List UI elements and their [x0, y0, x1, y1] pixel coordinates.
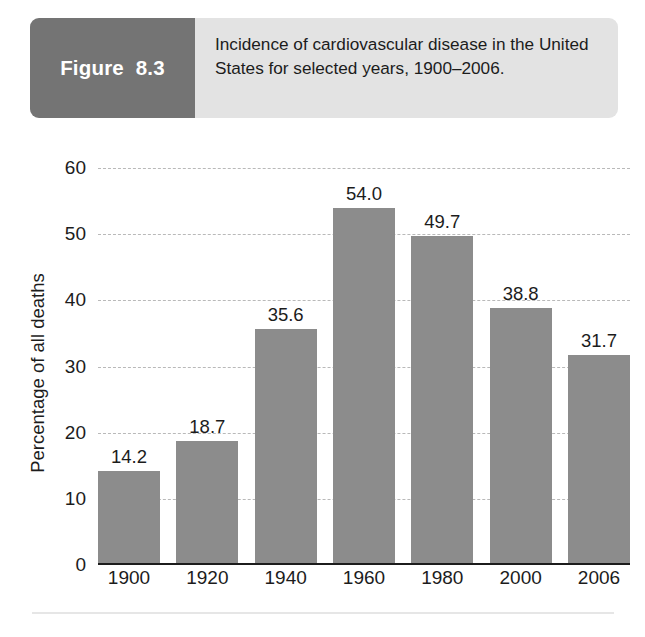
x-tick-slot: 2006: [568, 567, 630, 601]
x-tick-label: 1980: [421, 567, 463, 589]
x-tick-slot: 1900: [98, 567, 160, 601]
x-tick-slot: 1920: [176, 567, 238, 601]
bar-slot: 31.7: [568, 168, 630, 565]
figure-caption-box: Figure 8.3 Incidence of cardiovascular d…: [30, 18, 618, 118]
x-tick-slot: 1940: [255, 567, 317, 601]
bar-value-label: 38.8: [481, 283, 561, 305]
bar-value-label: 14.2: [89, 446, 169, 468]
y-tick-label: 10: [26, 488, 86, 510]
y-tick-label: 20: [26, 422, 86, 444]
figure-header: Figure 8.3 Incidence of cardiovascular d…: [30, 18, 618, 118]
bar-slot: 38.8: [490, 168, 552, 565]
x-tick-label: 2006: [578, 567, 620, 589]
bar-slot: 54.0: [333, 168, 395, 565]
x-axis-tick-labels: 1900192019401960198020002006: [98, 567, 630, 601]
figure-caption-text: Incidence of cardiovascular disease in t…: [215, 33, 610, 80]
bar-slot: 18.7: [176, 168, 238, 565]
y-tick-label: 30: [26, 356, 86, 378]
x-tick-label: 1960: [343, 567, 385, 589]
x-tick-slot: 1980: [411, 567, 473, 601]
bar[interactable]: [490, 308, 552, 565]
bar-slot: 49.7: [411, 168, 473, 565]
x-tick-slot: 2000: [490, 567, 552, 601]
x-axis-line: [98, 563, 630, 566]
y-tick-label: 60: [26, 157, 86, 179]
bar-chart: Percentage of all deaths 6050403020100 1…: [0, 130, 645, 610]
x-tick-label: 1900: [108, 567, 150, 589]
bar-value-label: 18.7: [167, 416, 247, 438]
bar[interactable]: [98, 471, 160, 565]
bottom-divider: [32, 612, 614, 614]
bar[interactable]: [255, 329, 317, 565]
bar[interactable]: [176, 441, 238, 565]
figure-number-box: Figure 8.3: [30, 18, 195, 118]
y-tick-label: 40: [26, 289, 86, 311]
y-tick-label: 0: [26, 554, 86, 576]
bar-slot: 14.2: [98, 168, 160, 565]
x-tick-slot: 1960: [333, 567, 395, 601]
plot-area: 6050403020100 14.218.735.654.049.738.831…: [98, 168, 630, 565]
figure-number-label: Figure 8.3: [60, 56, 165, 80]
bar-value-label: 49.7: [402, 211, 482, 233]
bar-slot: 35.6: [255, 168, 317, 565]
bar[interactable]: [333, 208, 395, 565]
bar[interactable]: [568, 355, 630, 565]
x-tick-label: 1940: [265, 567, 307, 589]
y-tick-label: 50: [26, 223, 86, 245]
x-tick-label: 2000: [500, 567, 542, 589]
x-tick-label: 1920: [186, 567, 228, 589]
bar-value-label: 31.7: [559, 330, 639, 352]
bar-value-label: 35.6: [246, 304, 326, 326]
bar-value-label: 54.0: [324, 183, 404, 205]
bar-series: 14.218.735.654.049.738.831.7: [98, 168, 630, 565]
bar[interactable]: [411, 236, 473, 565]
